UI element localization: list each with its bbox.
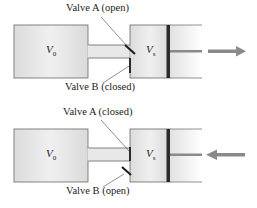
arrow-right-icon	[208, 46, 246, 57]
tank-v0-label: V0	[46, 148, 56, 162]
arrow-left-icon	[206, 150, 245, 161]
piston-rod	[170, 154, 202, 157]
panel-bottom: Valve A (closed) Valve B (open) V0 Vs	[0, 104, 257, 208]
leader-valve-a	[101, 17, 127, 46]
valve-a-label: Valve A (open)	[66, 3, 129, 14]
connecting-tube	[88, 45, 130, 58]
piston	[167, 25, 171, 78]
valve-a-label: Valve A (closed)	[63, 107, 132, 118]
connecting-tube	[88, 148, 130, 161]
leader-valve-a	[101, 120, 129, 151]
piston	[167, 129, 171, 182]
cylinder-vs-label: Vs	[146, 44, 155, 58]
panel-top: Valve A (open) Valve B (closed) V0 Vs	[0, 0, 257, 104]
tank-v0-label: V0	[46, 44, 56, 58]
valve-b-label: Valve B (closed)	[65, 82, 135, 93]
piston-rod	[170, 50, 202, 53]
valve-b-label: Valve B (open)	[66, 186, 130, 197]
cylinder-vs-label: Vs	[146, 148, 155, 162]
